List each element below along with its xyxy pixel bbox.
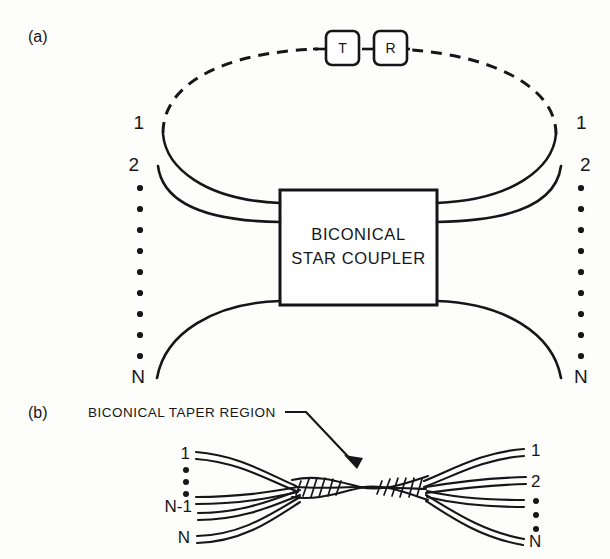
taper-region-callout-label: BICONICAL TAPER REGION <box>88 405 276 420</box>
ellipsis-dot <box>578 353 584 359</box>
port-label-b-right-2: 2 <box>531 472 540 491</box>
port-label-right-2: 2 <box>580 154 591 175</box>
biconical-star-coupler-box: BICONICAL STAR COUPLER <box>280 190 437 305</box>
fiber-b-left-4b <box>197 502 300 543</box>
ellipsis-dot <box>137 332 143 338</box>
coupler-box-line2: STAR COUPLER <box>291 249 425 267</box>
port-label-b-left-N: N <box>178 528 190 547</box>
ellipsis-dot <box>137 185 143 191</box>
fiber-right-N <box>437 301 561 378</box>
ellipsis-left-panel-a <box>137 185 143 359</box>
fiber-b-right-1a <box>424 449 524 481</box>
ellipsis-dot <box>183 479 189 485</box>
panel-b: (b) BICONICAL TAPER REGION <box>28 404 541 551</box>
ellipsis-dot <box>533 498 539 504</box>
ellipsis-dot <box>578 185 584 191</box>
receiver-box[interactable]: R <box>374 31 407 65</box>
ellipsis-dot <box>578 227 584 233</box>
fiber-left-2 <box>158 166 280 222</box>
ellipsis-dot <box>578 248 584 254</box>
taper-region-callout-arrow <box>285 412 363 469</box>
fiber-b-right-3a <box>427 491 524 500</box>
port-label-right-1: 1 <box>576 112 587 133</box>
ellipsis-dot <box>533 526 539 532</box>
ellipsis-dot <box>578 290 584 296</box>
ellipsis-dot <box>183 491 189 497</box>
ellipsis-left-panel-b <box>183 467 189 497</box>
ellipsis-right-panel-b <box>533 498 539 532</box>
ellipsis-dot <box>137 227 143 233</box>
hatch-line <box>417 479 422 496</box>
dashed-loop-left <box>163 49 318 133</box>
dashed-loop-right <box>393 49 556 134</box>
ellipsis-dot <box>137 206 143 212</box>
port-label-b-right-1: 1 <box>531 441 540 460</box>
ellipsis-dot <box>533 512 539 518</box>
port-label-b-right-N: N <box>529 532 541 551</box>
fiber-right-1 <box>437 134 556 203</box>
ellipsis-dot <box>137 269 143 275</box>
figure-container: (a) T R BICONICAL STAR C <box>0 0 610 559</box>
receiver-box-label: R <box>385 40 395 56</box>
port-label-left-N: N <box>131 366 145 387</box>
coupler-box-outline <box>280 190 437 305</box>
ellipsis-dot <box>578 332 584 338</box>
fiber-left-1 <box>163 134 280 203</box>
port-label-b-left-N-1: N-1 <box>165 497 192 516</box>
port-label-left-1: 1 <box>133 112 144 133</box>
transmitter-box[interactable]: T <box>326 31 359 65</box>
ellipsis-dot <box>183 467 189 473</box>
coupler-box-line1: BICONICAL <box>311 225 405 243</box>
panel-a: (a) T R BICONICAL STAR C <box>28 28 591 387</box>
ellipsis-dot <box>137 290 143 296</box>
panel-b-label: (b) <box>28 404 48 421</box>
fiber-left-N <box>157 301 280 378</box>
callout-arrow-head <box>344 455 363 469</box>
transmitter-box-label: T <box>338 40 347 56</box>
callout-arrow-shaft <box>285 412 357 466</box>
port-label-left-2: 2 <box>128 154 139 175</box>
ellipsis-dot <box>137 248 143 254</box>
figure-svg: (a) T R BICONICAL STAR C <box>0 0 610 559</box>
panel-a-label: (a) <box>28 28 48 45</box>
ellipsis-right-panel-a <box>578 185 584 359</box>
ellipsis-dot <box>578 206 584 212</box>
ellipsis-dot <box>578 269 584 275</box>
port-label-right-N: N <box>574 366 588 387</box>
fiber-right-2 <box>437 166 561 222</box>
ellipsis-dot <box>137 353 143 359</box>
ellipsis-dot <box>578 311 584 317</box>
ellipsis-dot <box>137 311 143 317</box>
port-label-b-left-1: 1 <box>181 444 190 463</box>
fiber-b-right-4a <box>426 495 524 539</box>
